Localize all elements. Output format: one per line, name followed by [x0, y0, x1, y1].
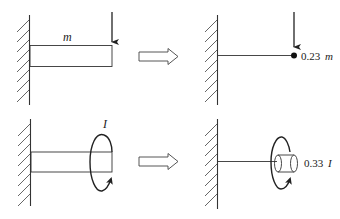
top-left-cantilever: m	[17, 12, 112, 105]
mass-symbol: m	[325, 50, 333, 62]
inertia-coefficient: 0.33	[304, 157, 324, 169]
disk-inertia-cylinder-icon	[275, 155, 298, 172]
bottom-right-equivalent: 0.33 I	[205, 119, 333, 209]
moment-arrow-icon	[90, 135, 111, 191]
hollow-right-arrow-icon	[139, 49, 178, 65]
inertia-symbol: I	[327, 157, 333, 169]
beam-mass-label: m	[63, 30, 72, 44]
beam	[31, 152, 112, 172]
mass-coefficient: 0.23	[301, 50, 321, 62]
wall-hatch-icon	[17, 15, 30, 105]
wall-hatch-icon	[205, 119, 218, 209]
hollow-right-arrow-icon	[139, 154, 178, 170]
bottom-left-cantilever: I	[18, 117, 112, 206]
equivalent-mass-label: 0.23 m	[301, 50, 333, 62]
point-mass-dot	[291, 53, 297, 59]
inertia-label: I	[102, 117, 108, 131]
top-right-equivalent: 0.23 m	[205, 12, 333, 105]
beam	[30, 46, 112, 67]
wall-hatch-icon	[205, 15, 218, 105]
equivalent-inertia-label: 0.33 I	[304, 157, 333, 169]
wall-hatch-icon	[18, 119, 31, 206]
